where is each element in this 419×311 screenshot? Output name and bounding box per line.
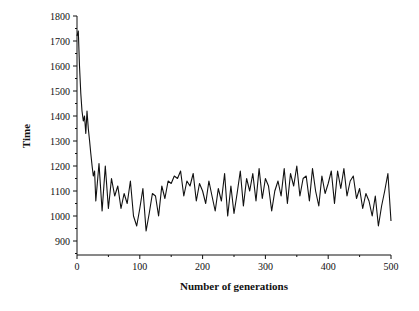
series-line xyxy=(77,31,391,231)
y-tick-label: 1800 xyxy=(50,11,70,22)
y-tick-label: 1500 xyxy=(50,86,70,97)
y-tick-label: 1200 xyxy=(50,161,70,172)
y-tick-label: 1100 xyxy=(50,186,70,197)
x-axis-title: Number of generations xyxy=(180,280,289,292)
x-tick-label: 300 xyxy=(258,261,273,272)
y-tick-label: 1600 xyxy=(50,61,70,72)
y-tick-label: 1700 xyxy=(50,36,70,47)
line-chart: 900100011001200130014001500160017001800 … xyxy=(0,0,419,311)
x-tick-label: 200 xyxy=(195,261,210,272)
y-tick-label: 1300 xyxy=(50,136,70,147)
x-tick-label: 0 xyxy=(75,261,80,272)
y-tick-label: 900 xyxy=(55,236,70,247)
x-tick-label: 500 xyxy=(384,261,399,272)
y-tick-label: 1400 xyxy=(50,111,70,122)
x-tick-label: 100 xyxy=(132,261,147,272)
y-axis-title: Time xyxy=(20,124,32,148)
y-tick-label: 1000 xyxy=(50,211,70,222)
x-axis: 0100200300400500 xyxy=(75,255,399,272)
y-axis: 900100011001200130014001500160017001800 xyxy=(50,11,77,256)
x-tick-label: 400 xyxy=(321,261,336,272)
